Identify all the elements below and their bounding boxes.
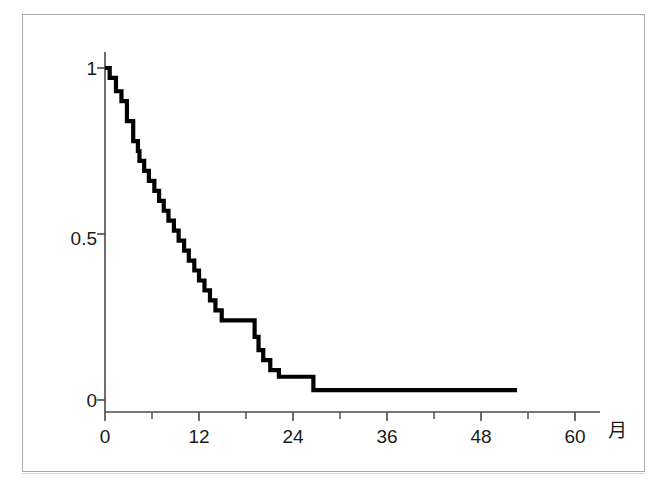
x-tick-label: 48	[470, 426, 491, 447]
x-tick-label: 0	[100, 426, 111, 447]
x-tick-label: 24	[282, 426, 304, 447]
y-tick-label-0_5: 0.5	[71, 228, 97, 249]
y-tick-label-0: 0	[86, 390, 97, 411]
x-tick-label: 36	[376, 426, 397, 447]
x-tick-label: 12	[188, 426, 209, 447]
survival-curve-line	[105, 68, 517, 390]
y-axis-ticks	[97, 68, 105, 400]
x-axis-tick-labels: 01224364860	[100, 426, 586, 447]
survival-curve-plot: 1 0.5 0 01224364860 月	[0, 0, 667, 488]
y-tick-label-1: 1	[86, 58, 97, 79]
figure-root: 1 0.5 0 01224364860 月	[0, 0, 667, 488]
x-tick-label: 60	[564, 426, 585, 447]
x-axis-unit-label: 月	[608, 419, 627, 441]
x-axis-minor-ticks	[152, 412, 528, 419]
